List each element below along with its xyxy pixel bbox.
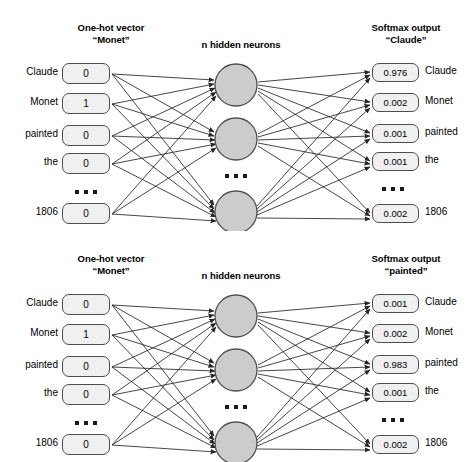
output-column-title-line1: Softmax output — [336, 253, 473, 265]
output-value-box[interactable]: 0.001 — [372, 294, 419, 313]
network-diagram-top: One-hot vector “Monet” n hidden neurons … — [0, 0, 473, 231]
output-column-title-line2: “Claude” — [336, 34, 473, 46]
hidden-neuron — [215, 118, 257, 160]
output-row-label: 1806 — [425, 206, 447, 217]
input-value-box[interactable]: 0 — [62, 203, 110, 224]
input-column-title-line1: One-hot vector — [36, 22, 186, 34]
input-column-title: One-hot vector “Monet” — [36, 253, 186, 276]
hidden-neuron — [215, 191, 257, 231]
output-value-box[interactable]: 0.001 — [372, 383, 419, 402]
input-row-label: Monet — [2, 96, 58, 107]
input-row-label: Claude — [2, 297, 58, 308]
input-row-label: the — [2, 156, 58, 167]
output-value-box[interactable]: 0.001 — [372, 152, 419, 171]
input-value-box[interactable]: 0 — [62, 153, 110, 174]
hidden-column-title: n hidden neurons — [176, 39, 306, 51]
output-value-box[interactable]: 0.002 — [372, 204, 419, 223]
hidden-neuron — [215, 64, 257, 106]
output-row-label: 1806 — [425, 437, 447, 448]
output-row-label: Claude — [425, 65, 457, 76]
input-row-label: Monet — [2, 327, 58, 338]
input-value-box[interactable]: 1 — [62, 324, 110, 345]
hidden-neuron — [215, 349, 257, 391]
output-value-box[interactable]: 0.002 — [372, 435, 419, 454]
output-row-label: Monet — [425, 95, 453, 106]
output-row-label: painted — [425, 126, 458, 137]
output-value-box[interactable]: 0.976 — [372, 63, 419, 82]
input-row-label: 1806 — [2, 206, 58, 217]
output-ellipsis — [382, 418, 404, 422]
input-column-title-line2: “Monet” — [36, 34, 186, 46]
output-value-box[interactable]: 0.001 — [372, 124, 419, 143]
input-value-box[interactable]: 0 — [62, 294, 110, 315]
input-column-title-line1: One-hot vector — [36, 253, 186, 265]
output-row-label: the — [425, 154, 439, 165]
input-value-box[interactable]: 0 — [62, 125, 110, 146]
output-column-title: Softmax output “painted” — [336, 253, 473, 276]
input-row-label: Claude — [2, 66, 58, 77]
output-ellipsis — [382, 187, 404, 191]
hidden-ellipsis — [225, 174, 247, 178]
input-column-title: One-hot vector “Monet” — [36, 22, 186, 45]
input-ellipsis — [75, 421, 97, 425]
output-value-box[interactable]: 0.983 — [372, 355, 419, 374]
input-row-label: painted — [2, 359, 58, 370]
output-column-title-line2: “painted” — [336, 265, 473, 277]
input-value-box[interactable]: 0 — [62, 356, 110, 377]
output-row-label: Claude — [425, 296, 457, 307]
input-value-box[interactable]: 0 — [62, 384, 110, 405]
output-column-title-line1: Softmax output — [336, 22, 473, 34]
input-column-title-line2: “Monet” — [36, 265, 186, 277]
input-row-label: 1806 — [2, 437, 58, 448]
input-row-label: the — [2, 387, 58, 398]
output-row-label: painted — [425, 357, 458, 368]
input-row-label: painted — [2, 128, 58, 139]
input-value-box[interactable]: 0 — [62, 63, 110, 84]
output-value-box[interactable]: 0.002 — [372, 324, 419, 343]
input-value-box[interactable]: 0 — [62, 434, 110, 455]
input-value-box[interactable]: 1 — [62, 93, 110, 114]
hidden-column-title: n hidden neurons — [176, 270, 306, 282]
output-value-box[interactable]: 0.002 — [372, 93, 419, 112]
output-row-label: the — [425, 385, 439, 396]
hidden-neuron — [215, 295, 257, 337]
network-diagram-bottom: One-hot vector “Monet” n hidden neurons … — [0, 231, 473, 462]
hidden-ellipsis — [225, 405, 247, 409]
hidden-neuron — [215, 422, 257, 462]
output-row-label: Monet — [425, 326, 453, 337]
input-ellipsis — [75, 190, 97, 194]
output-column-title: Softmax output “Claude” — [336, 22, 473, 45]
